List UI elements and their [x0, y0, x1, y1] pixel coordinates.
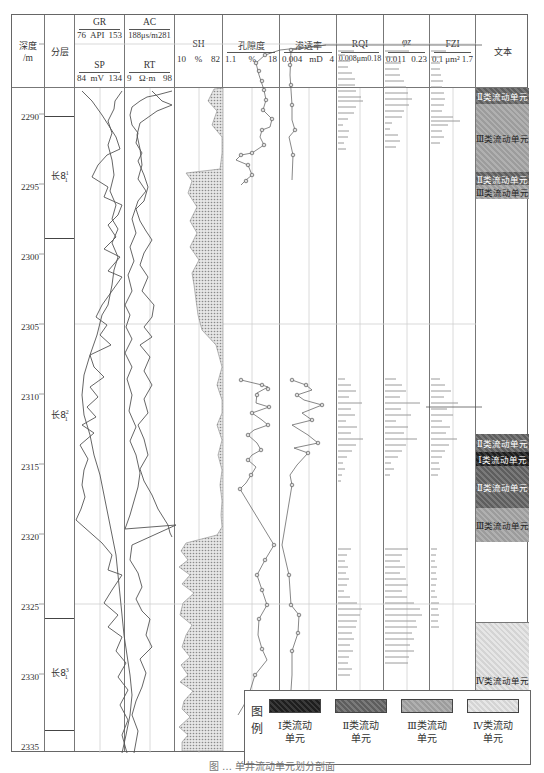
- legend-label-i-line1: Ⅰ类流动: [269, 719, 321, 732]
- legend-label-ii-line2: 单元: [335, 732, 387, 745]
- legend-label-i-line2: 单元: [269, 732, 321, 745]
- legend-item-iii: Ⅲ类流动 单元: [401, 699, 453, 745]
- legend-swatch-ii: [335, 699, 387, 713]
- rqi-bars: [338, 51, 363, 675]
- rt-curve: [125, 91, 176, 753]
- ac-curve: [130, 91, 172, 537]
- legend-label-ii-line1: Ⅱ类流动: [335, 719, 387, 732]
- log-plot-frame: 深度 /m 分层 GR 76API153 SP 84mV134 AC 188μs…: [11, 14, 528, 752]
- flow-unit-track: Ⅱ类流动单元 Ⅲ类流动单元 Ⅱ类流动单元 Ⅲ类流动单元 Ⅱ类流动单元 Ⅰ类流动单…: [476, 88, 529, 751]
- legend-swatch-i: [269, 699, 321, 713]
- zone-iii-2: Ⅲ类流动单元: [476, 185, 529, 199]
- phiz-bars: [385, 51, 422, 663]
- porosity-curve-mid: [240, 380, 269, 489]
- legend-label-iv-line2: 单元: [467, 732, 519, 745]
- zone-iii-1: Ⅲ类流动单元: [476, 104, 529, 172]
- legend: 图例 Ⅰ类流动 单元 Ⅱ类流动 单元 Ⅲ类流动 单元 Ⅳ类流动 单元: [244, 690, 531, 765]
- sh-fill: [179, 88, 223, 751]
- legend-swatch-iii: [401, 699, 453, 713]
- zone-ii-3: Ⅱ类流动单元: [476, 434, 529, 452]
- legend-label-iii-line2: 单元: [401, 732, 453, 745]
- permeability-curve-upper: [289, 45, 326, 180]
- zone-iii-3: Ⅲ类流动单元: [476, 508, 529, 542]
- porosity-curve-lower: [238, 489, 274, 715]
- legend-label-iv-line1: Ⅳ类流动: [467, 719, 519, 732]
- permeability-curve-mid: [290, 380, 322, 497]
- legend-label-iii-line1: Ⅲ类流动: [401, 719, 453, 732]
- legend-item-iv: Ⅳ类流动 单元: [467, 699, 519, 745]
- legend-title: 图例: [251, 704, 265, 738]
- zone-i-1: Ⅰ类流动单元: [476, 452, 529, 466]
- legend-item-i: Ⅰ类流动 单元: [269, 699, 321, 745]
- log-curves: [12, 15, 529, 753]
- sp-curve: [76, 91, 128, 753]
- fzi-bars: [431, 51, 460, 627]
- legend-swatch-iv: [467, 699, 519, 713]
- zone-ii-1: Ⅱ类流动单元: [476, 88, 529, 104]
- figure-caption: 图 … 单井流动单元划分剖面: [0, 758, 544, 773]
- zone-ii-2: Ⅱ类流动单元: [476, 172, 529, 185]
- zone-ii-4: Ⅱ类流动单元: [476, 466, 529, 508]
- legend-item-ii: Ⅱ类流动 单元: [335, 699, 387, 745]
